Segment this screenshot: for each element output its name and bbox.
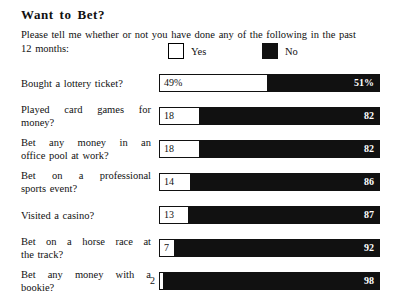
row-label: Played card games formoney? xyxy=(21,103,151,129)
legend-item-no: No xyxy=(262,43,298,59)
row-label: Bet on a horse race atthe track? xyxy=(21,235,151,261)
row-label-line: Visited a casino? xyxy=(21,209,151,222)
bar-segment-yes: 18 xyxy=(160,141,200,157)
bar-value-no: 87 xyxy=(364,210,374,220)
legend-item-yes: Yes xyxy=(168,43,206,59)
row-label-line: Bet any money with a xyxy=(21,268,151,281)
black-square-icon xyxy=(262,43,278,59)
chart-subtitle-line-1: Please tell me whether or not you have d… xyxy=(21,28,365,42)
bar-value-no: 82 xyxy=(364,111,374,121)
bar-value-yes: 18 xyxy=(164,144,174,154)
stacked-bar: 1387 xyxy=(159,206,380,224)
row-label-line: Bet any money in an xyxy=(21,136,151,149)
bar-segment-no: 87 xyxy=(189,207,379,223)
stacked-bar: 1882 xyxy=(159,107,380,125)
legend-label-yes: Yes xyxy=(191,46,206,57)
row-label: Bet any money with abookie? xyxy=(21,268,151,294)
chart-figure: Want to Bet? Please tell me whether or n… xyxy=(0,0,396,301)
bar-value-no: 98 xyxy=(364,276,374,286)
row-label: Bought a lottery ticket? xyxy=(21,77,151,90)
bar-segment-yes: 13 xyxy=(160,207,189,223)
row-label-line: Bet on a professional xyxy=(21,169,151,182)
row-label-line: sports event? xyxy=(21,182,151,195)
bar-segment-no: 82 xyxy=(200,141,379,157)
bar-value-yes: 14 xyxy=(164,177,174,187)
bar-value-no: 51% xyxy=(354,78,374,88)
bar-row: Bet on a professionalsports event?1486 xyxy=(0,173,396,191)
bar-value-yes: 2 xyxy=(150,276,155,286)
chart-title: Want to Bet? xyxy=(21,7,105,23)
bar-value-no: 82 xyxy=(364,144,374,154)
stacked-bar: 298 xyxy=(159,272,380,290)
bar-segment-no: 98 xyxy=(164,273,379,289)
row-label-line: Played card games for xyxy=(21,103,151,116)
chart-subtitle-line-2: 12 months: xyxy=(21,42,69,56)
bar-segment-no: 92 xyxy=(175,240,379,256)
bar-row: Bet any money with abookie?298 xyxy=(0,272,396,290)
row-label: Bet on a professionalsports event? xyxy=(21,169,151,195)
bar-value-yes: 18 xyxy=(164,111,174,121)
bar-row: Bet any money in anoffice pool at work?1… xyxy=(0,140,396,158)
bar-row: Bet on a horse race atthe track?792 xyxy=(0,239,396,257)
stacked-bar: 1882 xyxy=(159,140,380,158)
row-label-line: bookie? xyxy=(21,281,151,294)
bar-segment-no: 82 xyxy=(200,108,379,124)
row-label: Bet any money in anoffice pool at work? xyxy=(21,136,151,162)
row-label-line: money? xyxy=(21,116,151,129)
bar-segment-no: 86 xyxy=(191,174,379,190)
row-label-line: Bet on a horse race at xyxy=(21,235,151,248)
bar-value-no: 86 xyxy=(364,177,374,187)
row-label-line: office pool at work? xyxy=(21,149,151,162)
stacked-bar: 792 xyxy=(159,239,380,257)
stacked-bar: 49%51% xyxy=(159,74,380,92)
bar-row: Visited a casino?1387 xyxy=(0,206,396,224)
white-square-icon xyxy=(168,43,184,59)
bar-row: Played card games formoney?1882 xyxy=(0,107,396,125)
bar-row: Bought a lottery ticket?49%51% xyxy=(0,74,396,92)
bar-segment-yes: 7 xyxy=(160,240,175,256)
legend-label-no: No xyxy=(285,46,298,57)
bar-value-no: 92 xyxy=(364,243,374,253)
bar-segment-no: 51% xyxy=(268,75,379,91)
bar-value-yes: 7 xyxy=(164,243,169,253)
row-label-line: Bought a lottery ticket? xyxy=(21,77,151,90)
bar-value-yes: 49% xyxy=(164,78,182,88)
stacked-bar: 1486 xyxy=(159,173,380,191)
bar-segment-yes: 49% xyxy=(160,75,268,91)
row-label-line: the track? xyxy=(21,248,151,261)
bar-segment-yes: 18 xyxy=(160,108,200,124)
row-label: Visited a casino? xyxy=(21,209,151,222)
bar-value-yes: 13 xyxy=(164,210,174,220)
bar-segment-yes: 14 xyxy=(160,174,191,190)
